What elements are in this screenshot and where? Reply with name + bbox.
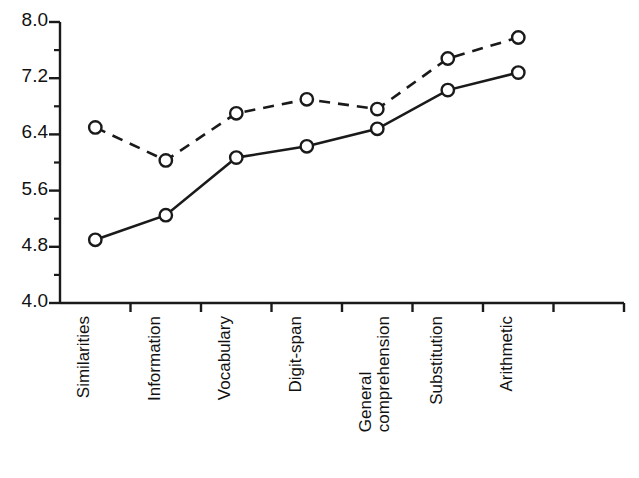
data-point-marker [301,93,313,105]
x-axis-category-label: Vocabulary [216,316,234,400]
data-point-marker [160,209,172,221]
y-axis-ticks [49,22,60,303]
data-point-marker [160,154,172,166]
chart-axes [60,22,624,303]
data-point-marker [371,103,383,115]
data-point-marker [512,31,524,43]
y-axis-tick-label: 7.2 [0,65,48,87]
data-point-marker [512,66,524,78]
x-axis-category-label: Arithmetic [498,316,516,392]
x-axis-category-label: General comprehension [357,316,393,432]
x-axis-category-label: Information [146,316,164,401]
data-point-marker [230,151,242,163]
data-point-marker [89,121,101,133]
x-axis-category-label: Similarities [75,316,93,398]
y-axis-tick-label: 6.4 [0,121,48,143]
x-axis-ticks [131,303,625,312]
data-point-marker [89,234,101,246]
y-axis-tick-label: 5.6 [0,178,48,200]
y-axis-tick-label: 4.0 [0,290,48,312]
x-axis-category-label: Digit-span [287,316,305,393]
line-chart-plot [0,0,639,478]
data-point-marker [371,123,383,135]
data-point-marker [230,107,242,119]
data-point-marker [442,52,454,64]
x-axis-category-label: Substitution [428,316,446,405]
data-point-marker [442,84,454,96]
data-point-marker [301,140,313,152]
chart-series-group [89,31,524,246]
y-axis-tick-label: 4.8 [0,234,48,256]
y-axis-tick-label: 8.0 [0,9,48,31]
chart-figure: 4.04.85.66.47.28.0 SimilaritiesInformati… [0,0,639,478]
